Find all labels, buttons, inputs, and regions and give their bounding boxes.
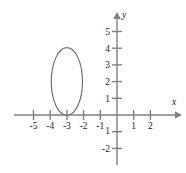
coordinate-plane-svg: -5 -4 -3 -2 -1 1 2 1 2 3 4 5 1 -2 x y bbox=[0, 0, 186, 173]
y-tick-label--2: -2 bbox=[102, 144, 110, 154]
x-tick-label--3: -3 bbox=[63, 121, 71, 131]
y-tick-label-5: 5 bbox=[105, 27, 110, 37]
graph-figure: -5 -4 -3 -2 -1 1 2 1 2 3 4 5 1 -2 x y bbox=[0, 0, 186, 173]
x-tick-label--1: -1 bbox=[96, 121, 104, 131]
y-tick-label-4: 4 bbox=[105, 44, 110, 54]
y-axis-group bbox=[112, 12, 122, 165]
y-tick-label-2: 2 bbox=[105, 77, 110, 87]
y-tick-labels: 1 2 3 4 5 1 -2 bbox=[102, 27, 110, 154]
y-tick-label-3: 3 bbox=[105, 60, 110, 70]
x-tick-label--2: -2 bbox=[80, 121, 88, 131]
y-axis-name: y bbox=[121, 10, 127, 20]
ellipse-curve-group bbox=[51, 48, 82, 116]
x-tick-label--4: -4 bbox=[46, 121, 54, 131]
y-axis-arrow-icon bbox=[113, 12, 121, 19]
x-tick-label-1: 1 bbox=[131, 121, 136, 131]
y-tick-label-1: 1 bbox=[105, 94, 110, 104]
y-tick-label--1: 1 bbox=[105, 126, 110, 136]
x-axis-arrow-icon bbox=[175, 111, 182, 119]
axis-names: x y bbox=[121, 10, 177, 107]
x-axis-name: x bbox=[171, 97, 177, 107]
ellipse-curve bbox=[51, 48, 82, 116]
x-tick-label-2: 2 bbox=[148, 121, 153, 131]
x-axis-group bbox=[14, 110, 182, 120]
x-tick-labels: -5 -4 -3 -2 -1 1 2 bbox=[30, 121, 153, 131]
x-tick-label--5: -5 bbox=[30, 121, 38, 131]
